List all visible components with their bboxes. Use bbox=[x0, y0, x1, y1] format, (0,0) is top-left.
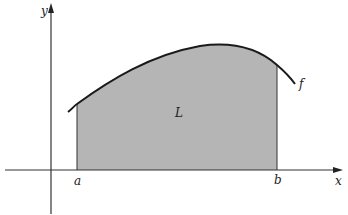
function-label-f: f bbox=[298, 77, 306, 91]
x-axis-arrow-icon bbox=[333, 167, 343, 173]
region-label-L: L bbox=[174, 106, 183, 120]
bound-label-b: b bbox=[274, 173, 282, 187]
x-axis-label: x bbox=[335, 174, 342, 188]
area-under-curve-diagram: y x f L a b bbox=[0, 0, 348, 215]
y-axis-label: y bbox=[40, 4, 48, 18]
y-axis-arrow-icon bbox=[48, 3, 54, 13]
bound-label-a: a bbox=[74, 174, 81, 188]
